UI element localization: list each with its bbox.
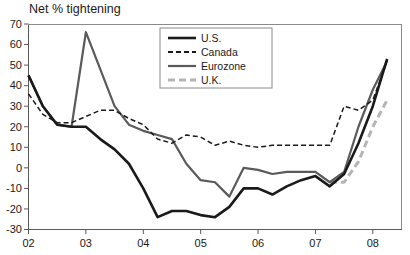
chart-title: Net % tightening <box>29 2 121 16</box>
x-tick-label: 06 <box>252 237 264 249</box>
y-tick-label: -20 <box>6 203 22 215</box>
x-tick-label: 08 <box>367 237 379 249</box>
chart-legend: U.S.CanadaEurozoneU.K. <box>160 28 272 88</box>
y-tick-label: 20 <box>10 121 22 133</box>
y-tick-label: 30 <box>10 100 22 112</box>
y-tick-label: -10 <box>6 182 22 194</box>
legend-label-canada: Canada <box>201 46 238 58</box>
y-tick-label: 40 <box>10 79 22 91</box>
y-tick-label: -30 <box>6 223 22 235</box>
chart-container: Net % tightening -30-20-1001020304050607… <box>0 0 410 255</box>
legend-label-us: U.S. <box>201 32 221 44</box>
legend-label-eurozone: Eurozone <box>201 60 246 72</box>
x-tick-label: 07 <box>309 237 321 249</box>
x-tick-label: 05 <box>195 237 207 249</box>
line-chart: Net % tightening -30-20-1001020304050607… <box>0 0 410 255</box>
y-tick-label: 10 <box>10 141 22 153</box>
legend-label-uk: U.K. <box>201 74 221 86</box>
x-tick-label: 03 <box>80 237 92 249</box>
y-tick-label: 70 <box>10 18 22 30</box>
x-tick-label: 04 <box>137 237 149 249</box>
y-tick-label: 50 <box>10 59 22 71</box>
y-tick-label: 0 <box>16 162 22 174</box>
y-tick-label: 60 <box>10 38 22 50</box>
x-tick-label: 02 <box>22 237 34 249</box>
